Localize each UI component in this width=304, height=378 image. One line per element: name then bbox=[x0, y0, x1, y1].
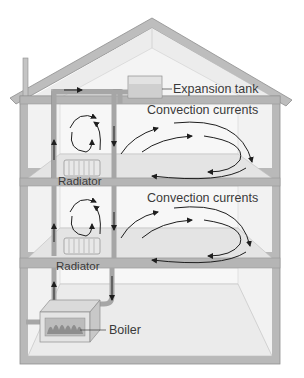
convection-currents-label-upper: Convection currents bbox=[147, 104, 258, 117]
convection-currents-label-lower: Convection currents bbox=[147, 192, 258, 205]
expansion-tank-label: Expansion tank bbox=[173, 83, 258, 96]
radiator-label-lower: Radiator bbox=[56, 261, 99, 273]
radiator-lower bbox=[64, 238, 100, 254]
heating-diagram: Expansion tank Convection currents Radia… bbox=[0, 0, 304, 378]
boiler-label: Boiler bbox=[109, 324, 141, 337]
house-illustration bbox=[0, 0, 304, 378]
radiator-label-upper: Radiator bbox=[58, 176, 101, 188]
radiator-upper bbox=[64, 160, 100, 176]
